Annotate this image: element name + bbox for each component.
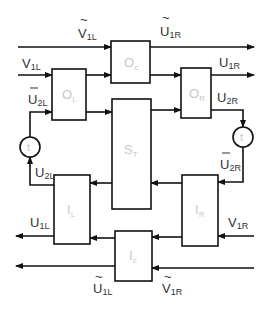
label-u1l: U1L	[30, 215, 49, 231]
svg-text:V1L: V1L	[78, 26, 97, 42]
label-v1r-tilde: ~ V1R	[162, 269, 183, 297]
svg-text:U2L: U2L	[35, 165, 54, 181]
block-il: IL	[54, 175, 90, 244]
svg-text:U1R: U1R	[160, 24, 181, 40]
label-u2r: U2R	[217, 90, 238, 106]
svg-text:~: ~	[80, 12, 88, 27]
block-or: OR	[181, 68, 211, 118]
label-v1l-tilde: ~ V1L	[78, 12, 97, 42]
block-oc: Oc	[111, 41, 150, 83]
svg-text:U2R: U2R	[217, 90, 238, 106]
svg-text:V1R: V1R	[228, 215, 249, 231]
svg-text:U1L: U1L	[30, 215, 49, 231]
time-node-left: t	[20, 137, 40, 157]
label-u2l: U2L	[35, 165, 54, 181]
svg-text:U1L: U1L	[93, 281, 112, 297]
svg-text:U1R: U1R	[219, 55, 240, 71]
svg-text:t: t	[240, 131, 243, 143]
svg-text:U2R: U2R	[220, 157, 241, 173]
label-u2r-bar: U2R	[220, 153, 241, 173]
label-u1l-tilde: ~ U1L	[93, 269, 112, 297]
svg-text:U2L: U2L	[28, 92, 47, 108]
block-diagram: Oc OL ST OR IL IR Ic t t ~ V1L ~ U1R	[0, 0, 268, 311]
svg-text:t: t	[27, 141, 30, 153]
label-u2l-bar: U2L	[28, 88, 47, 108]
label-u1r: U1R	[219, 55, 240, 71]
svg-text:V1L: V1L	[22, 56, 41, 72]
svg-text:~: ~	[162, 10, 170, 25]
block-ol: OL	[52, 69, 86, 120]
label-u1r-tilde: ~ U1R	[160, 10, 181, 40]
label-v1r: V1R	[228, 215, 249, 231]
block-ir: IR	[182, 175, 218, 246]
time-node-right: t	[233, 127, 253, 147]
block-ic: Ic	[115, 231, 152, 281]
label-v1l: V1L	[22, 56, 41, 72]
block-st: ST	[112, 99, 151, 209]
svg-text:V1R: V1R	[162, 281, 183, 297]
